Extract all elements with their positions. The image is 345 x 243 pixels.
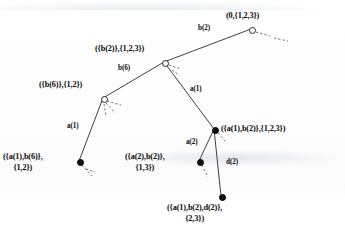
dashed-stub [104,104,106,116]
closed-node-marker [219,194,226,201]
tree-edge [79,98,103,161]
tree-edge [103,62,164,98]
set-enumeration-tree-diagram: (0,{1,2,3})({b(2)},{1,2,3})({b(6)},{1,2}… [0,0,345,243]
tree-edge [199,129,214,161]
node-label-line: ({b(6)},{1,2}) [39,80,82,91]
edge-label: a(1) [67,122,79,130]
node-label: ({a(2),b(2)},{1,3}) [125,152,165,173]
open-node-marker [249,27,256,34]
tree-edge [214,129,221,196]
node-label-line: ({a(2),b(2)}, [125,152,165,163]
edge-label: b(6) [118,64,130,72]
node-label: ({b(2)},{1,2,3}) [95,44,144,55]
dashed-stub [274,38,288,41]
closed-node-marker [77,159,84,166]
open-node-marker [101,96,108,103]
node-label-line: {2,3}) [167,214,222,225]
dashed-stub [202,165,208,177]
edge-label: a(2) [186,138,198,146]
edge-label: d(2) [226,158,238,166]
node-label: ({a(1),b(6)},{1,2}) [3,152,43,173]
node-label-line: (0,{1,2,3}) [226,11,259,22]
dashed-stub [86,169,95,172]
closed-node-marker [197,159,204,166]
node-label: ({a(1),b(2)},{1,2,3}) [221,124,285,135]
dashed-stub [169,65,181,69]
open-node-marker [162,60,169,67]
tree-edge [164,62,214,129]
node-label-line: ({a(1),b(2)},{1,2,3}) [221,124,285,135]
node-label-line: {1,2}) [3,163,43,174]
dashed-stub [106,103,115,113]
node-label-line: ({a(1),b(6)}, [3,152,43,163]
node-label-line: ({b(2)},{1,2,3}) [95,44,144,55]
tree-edge [164,29,251,62]
closed-node-marker [212,127,219,134]
dashed-stub [107,101,121,105]
dashed-stub [256,32,270,36]
node-label-line: ({a(1),b(2),d(2)}, [167,203,222,214]
node-label: ({b(6)},{1,2}) [39,80,82,91]
node-label: ({a(1),b(2),d(2)},{2,3}) [167,203,222,224]
node-label-line: {1,3}) [125,163,165,174]
edge-label: b(2) [198,24,210,32]
edge-label: a(1) [190,85,202,93]
node-label: (0,{1,2,3}) [226,11,259,22]
